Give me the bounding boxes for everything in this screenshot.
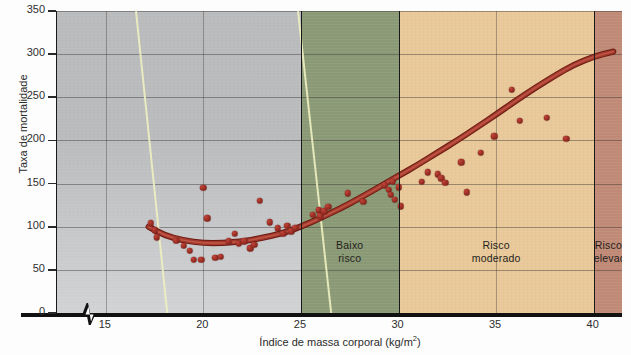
- data-point: [509, 86, 516, 93]
- data-point: [391, 197, 398, 204]
- chart-figure: BaixoriscoRiscomoderadoRiscoelevado 0501…: [0, 0, 631, 355]
- data-point: [190, 256, 197, 263]
- data-point: [147, 220, 154, 227]
- band-divider: [399, 11, 401, 313]
- x-axis-tick-label: 35: [475, 318, 515, 330]
- data-point: [226, 238, 233, 245]
- x-axis-title-tail: ): [417, 336, 421, 348]
- data-point: [173, 237, 180, 244]
- trend-curve: [57, 11, 622, 313]
- data-point: [325, 204, 332, 211]
- data-point: [345, 190, 352, 197]
- data-point: [292, 224, 299, 231]
- y-axis-tick-label: 50: [5, 262, 45, 274]
- data-point: [198, 256, 205, 263]
- x-axis-tick-label: 25: [280, 318, 320, 330]
- risk-band-label: Riscomoderado: [399, 239, 594, 265]
- data-point: [544, 115, 551, 122]
- y-axis-tick-label: 0: [5, 305, 45, 317]
- y-axis-tick: [48, 269, 56, 271]
- x-axis-title-base: Índice de massa corporal (kg/m: [259, 336, 412, 348]
- plot-area: BaixoriscoRiscomoderadoRiscoelevado: [56, 11, 622, 313]
- data-point: [186, 248, 193, 255]
- y-axis-tick: [48, 183, 56, 185]
- data-point: [477, 149, 484, 156]
- y-axis-tick: [48, 312, 56, 314]
- y-axis-tick: [48, 10, 56, 12]
- data-point: [491, 133, 498, 140]
- band-divider: [594, 11, 596, 313]
- data-point: [425, 169, 432, 176]
- data-point: [516, 117, 523, 124]
- data-point: [153, 234, 160, 241]
- risk-band-label: Riscoelevado: [594, 239, 622, 265]
- data-point: [200, 185, 207, 192]
- data-point: [257, 198, 264, 205]
- data-point: [241, 238, 248, 245]
- x-axis-tick-label: 20: [182, 318, 222, 330]
- risk-band-label: Baixorisco: [301, 239, 399, 265]
- band-divider: [301, 11, 303, 313]
- y-axis-title: Taxa de mortalidade: [17, 49, 29, 199]
- x-axis-title: Índice de massa corporal (kg/m2): [200, 334, 480, 348]
- x-axis-tick-label: 40: [573, 318, 613, 330]
- x-axis-tick-label: 15: [85, 318, 125, 330]
- data-point: [266, 219, 273, 226]
- data-point: [280, 230, 287, 237]
- data-point: [563, 135, 570, 142]
- data-point: [218, 254, 225, 261]
- data-point: [251, 242, 258, 249]
- data-point: [231, 230, 238, 237]
- data-point: [204, 215, 211, 222]
- y-axis-tick: [48, 226, 56, 228]
- data-point: [151, 227, 158, 234]
- y-axis-tick-label: 100: [5, 219, 45, 231]
- x-axis-tick-label: 30: [378, 318, 418, 330]
- y-axis-tick-label: 350: [5, 3, 45, 15]
- y-axis-tick: [48, 96, 56, 98]
- data-point: [442, 179, 449, 186]
- data-point: [458, 159, 465, 166]
- y-axis-tick: [48, 53, 56, 55]
- y-axis-tick: [48, 140, 56, 142]
- trend-curve-stroke: [149, 52, 614, 244]
- data-point: [464, 189, 471, 196]
- data-point: [419, 179, 426, 186]
- x-axis-line: [21, 313, 622, 317]
- data-point: [360, 198, 367, 205]
